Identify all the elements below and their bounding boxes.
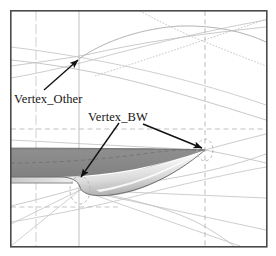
airfoil-left-skirt bbox=[11, 177, 73, 183]
figure-canvas: Vertex_Other Vertex_BW bbox=[0, 0, 276, 256]
label-vertex-other: Vertex_Other bbox=[14, 92, 83, 107]
label-vertex-bw: Vertex_BW bbox=[88, 110, 148, 125]
airfoil-mesh-diagram bbox=[0, 0, 276, 256]
